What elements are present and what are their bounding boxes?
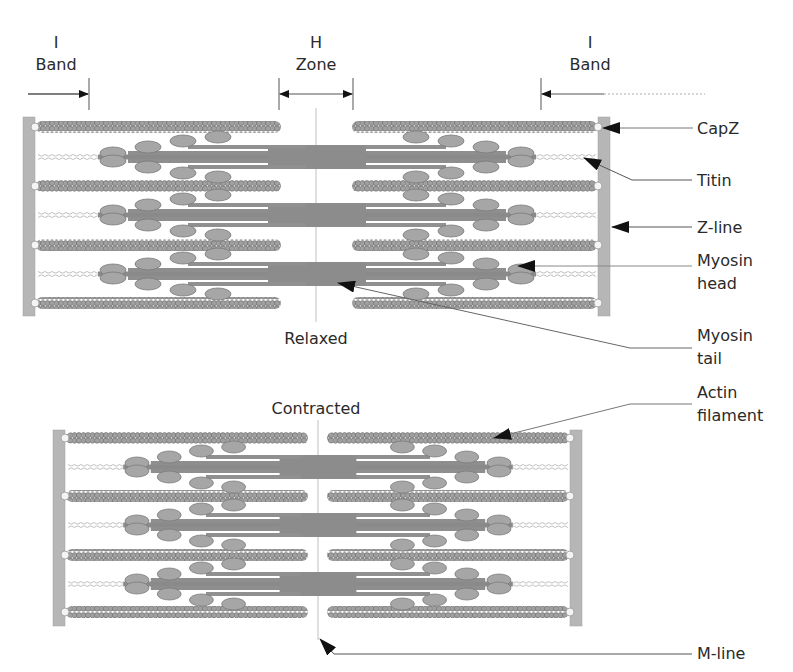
- myosin-filaments-relaxed: [38, 131, 596, 300]
- svg-text:filament: filament: [697, 406, 763, 425]
- svg-text:I: I: [54, 33, 59, 52]
- i-band-left-label: I Band: [35, 33, 76, 74]
- callout-actin-filament: Actin filament: [494, 383, 763, 438]
- svg-text:tail: tail: [697, 349, 722, 368]
- myosin-filaments-contracted: [68, 441, 568, 610]
- z-line-right-relaxed: [598, 117, 610, 316]
- contracted-sarcomere: Contracted: [53, 399, 582, 640]
- contracted-label: Contracted: [272, 399, 361, 418]
- z-line-left-relaxed: [23, 117, 35, 316]
- h-zone-label: H Zone: [296, 33, 337, 74]
- relaxed-sarcomere: Relaxed: [23, 108, 610, 348]
- z-line-right-contracted: [570, 430, 582, 626]
- svg-text:Band: Band: [569, 55, 610, 74]
- svg-text:Myosin: Myosin: [697, 251, 753, 270]
- svg-text:Zone: Zone: [296, 55, 337, 74]
- svg-text:Actin: Actin: [697, 383, 737, 402]
- callout-zline: Z-line: [612, 218, 742, 237]
- callout-myosin-tail: Myosin tail: [338, 283, 753, 368]
- svg-text:Z-line: Z-line: [697, 218, 742, 237]
- z-line-left-contracted: [53, 430, 65, 626]
- svg-text:Titin: Titin: [696, 171, 732, 190]
- svg-text:head: head: [697, 274, 737, 293]
- svg-text:H: H: [310, 33, 322, 52]
- svg-text:I: I: [588, 33, 593, 52]
- svg-text:Band: Band: [35, 55, 76, 74]
- svg-text:M-line: M-line: [697, 644, 745, 663]
- callout-mline: M-line: [320, 639, 745, 663]
- h-zone-marker: [279, 78, 353, 110]
- sarcomere-diagram: I Band H Zone I Band: [0, 0, 793, 672]
- i-band-right-marker: [541, 78, 705, 110]
- relaxed-label: Relaxed: [284, 329, 347, 348]
- callout-capz: CapZ: [603, 119, 739, 138]
- svg-text:CapZ: CapZ: [697, 119, 739, 138]
- svg-text:Myosin: Myosin: [697, 326, 753, 345]
- i-band-right-label: I Band: [569, 33, 610, 74]
- i-band-left-marker: [28, 78, 89, 110]
